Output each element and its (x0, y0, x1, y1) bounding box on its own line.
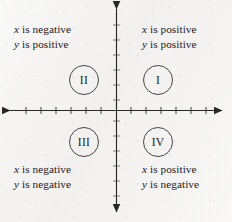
x-sign-predicate: is positive (147, 163, 197, 175)
quadrant-4-x-sign: x is positive (142, 162, 199, 177)
quadrant-4-numeral: IV (152, 136, 165, 148)
quadrant-4-numeral-badge: IV (143, 127, 173, 157)
quadrant-3-numeral: III (78, 136, 90, 148)
cartesian-quadrants-diagram: x is negative y is positive x is positiv… (0, 0, 232, 222)
x-sign-predicate: is negative (19, 23, 71, 35)
y-sign-predicate: is positive (19, 38, 69, 50)
quadrant-2-x-sign: x is negative (14, 22, 71, 37)
y-sign-predicate: is negative (19, 178, 71, 190)
quadrant-3-x-sign: x is negative (14, 162, 71, 177)
quadrant-3-y-sign: y is negative (14, 177, 71, 192)
quadrant-1-description: x is positive y is positive (142, 22, 197, 52)
quadrant-4-y-sign: y is negative (142, 177, 199, 192)
y-sign-predicate: is positive (147, 38, 197, 50)
quadrant-4-description: x is positive y is negative (142, 162, 199, 192)
quadrant-1-numeral: I (156, 74, 160, 86)
quadrant-3-numeral-badge: III (69, 127, 99, 157)
quadrant-2-description: x is negative y is positive (14, 22, 71, 52)
quadrant-2-y-sign: y is positive (14, 37, 71, 52)
quadrant-2-numeral-badge: II (69, 65, 99, 95)
quadrant-1-numeral-badge: I (143, 65, 173, 95)
y-sign-predicate: is negative (147, 178, 199, 190)
quadrant-3-description: x is negative y is negative (14, 162, 71, 192)
quadrant-1-y-sign: y is positive (142, 37, 197, 52)
quadrant-2-numeral: II (80, 74, 88, 86)
quadrant-1-x-sign: x is positive (142, 22, 197, 37)
x-sign-predicate: is negative (19, 163, 71, 175)
x-sign-predicate: is positive (147, 23, 197, 35)
